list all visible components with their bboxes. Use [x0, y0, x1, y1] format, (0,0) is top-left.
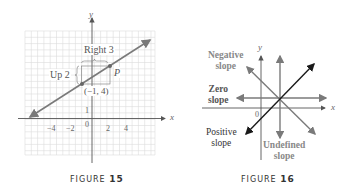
point-label: (−1, 4) [83, 86, 110, 96]
zero-slope-label: Zero slope [208, 84, 229, 106]
negative-slope-label: Negative slope [208, 50, 243, 72]
rise-label: Up 2 [49, 69, 71, 80]
label-line: slope [263, 151, 305, 162]
caption-word: FIGURE [70, 175, 106, 184]
x-tick-2: 2 [106, 124, 110, 133]
fig15-caption: FIGURE 15 [70, 174, 124, 184]
fig16-x-label: x [331, 102, 335, 112]
run-label: Right 3 [83, 44, 115, 55]
x-tick-neg2: −2 [66, 124, 75, 133]
label-line: Zero [208, 84, 229, 95]
undefined-slope-label: Undefined slope [263, 140, 305, 162]
x-tick-neg4: −4 [47, 124, 56, 133]
fig16-caption: FIGURE 16 [241, 174, 295, 184]
caption-number: 16 [280, 174, 295, 184]
p-label: P [114, 67, 120, 78]
point-p [108, 64, 112, 68]
fig15-y-label: y [89, 9, 93, 19]
caption-number: 15 [109, 174, 124, 184]
label-line: slope [206, 138, 237, 149]
caption-word: FIGURE [241, 175, 277, 184]
fig16-y-label: y [258, 42, 262, 52]
label-line: slope [208, 61, 243, 72]
fig16-origin-label: 0 [255, 110, 259, 119]
origin-label: 0 [85, 120, 89, 129]
x-tick-4: 4 [124, 124, 128, 133]
label-line: slope [208, 95, 229, 106]
label-line: Negative [208, 50, 243, 61]
negative-slope-line [247, 67, 315, 134]
label-line: Positive [206, 127, 237, 138]
positive-slope-label: Positive slope [206, 127, 237, 149]
fig15-x-label: x [170, 112, 174, 122]
y-tick-1: 1 [85, 106, 89, 115]
label-line: Undefined [263, 140, 305, 151]
